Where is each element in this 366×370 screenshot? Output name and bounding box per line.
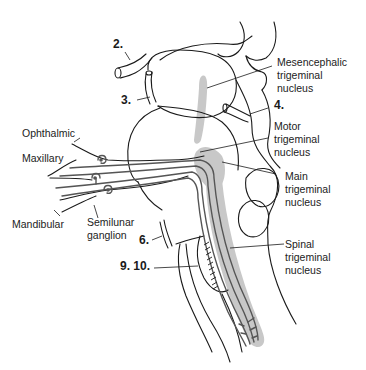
label-cranial-nerves-9-10: 9. 10. [120, 259, 150, 273]
nerve-2-stub [118, 54, 146, 68]
label-cranial-nerve-4: 4. [274, 98, 284, 112]
olive-outline [176, 236, 204, 244]
label-mesencephalic-trigeminal-nucleus: Mesencephalic trigeminal nucleus [277, 56, 347, 95]
label-semilunar-ganglion: Semilunar ganglion [87, 216, 134, 242]
mesencephalic-nucleus-shape [194, 76, 207, 144]
label-mandibular: Mandibular [12, 218, 64, 231]
label-maxillary: Maxillary [22, 152, 63, 165]
label-cranial-nerve-2: 2. [113, 37, 123, 51]
label-cranial-nerve-3: 3. [121, 93, 131, 107]
label-motor-trigeminal-nucleus: Motor trigeminal nucleus [274, 120, 320, 159]
nerve-3-stub [145, 74, 150, 104]
label-main-trigeminal-nucleus: Main trigeminal nucleus [285, 170, 331, 209]
label-spinal-trigeminal-nucleus: Spinal trigeminal nucleus [285, 238, 331, 277]
trigeminal-nerve-sheath [72, 144, 204, 161]
nerve-6-stub [160, 222, 168, 248]
label-ophthalmic: Ophthalmic [22, 127, 75, 140]
label-cranial-nerve-6: 6. [139, 233, 149, 247]
upper-structure-outline [160, 36, 252, 60]
